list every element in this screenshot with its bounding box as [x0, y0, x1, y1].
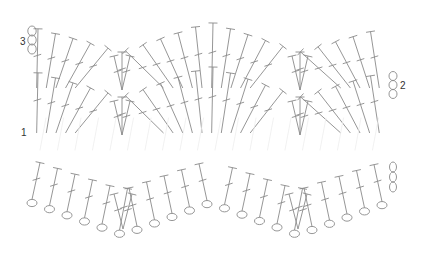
- double-crochet-icon: [46, 33, 60, 88]
- double-crochet-icon: [75, 45, 111, 88]
- double-crochet-icon: [314, 44, 350, 88]
- double-crochet-icon: [335, 175, 347, 214]
- double-crochet-icon: [122, 48, 163, 88]
- crochet-chart: [0, 0, 424, 253]
- row-label-1: 1: [21, 127, 27, 138]
- chain-stitch-icon: [97, 224, 107, 231]
- chain-stitch-icon: [28, 26, 36, 36]
- chain-stitch-icon: [132, 226, 142, 233]
- double-crochet-icon: [349, 80, 370, 133]
- chain-stitch-icon: [389, 81, 397, 90]
- double-crochet-icon: [332, 84, 361, 133]
- chain-stitch-icon: [115, 230, 125, 237]
- double-crochet-icon: [298, 193, 311, 229]
- double-crochet-icon: [56, 37, 77, 88]
- double-crochet-icon: [122, 55, 134, 90]
- double-crochet-icon: [225, 167, 237, 205]
- chain-stitch-icon: [342, 214, 352, 221]
- double-crochet-icon: [260, 179, 272, 218]
- chain-stitch-icon: [390, 182, 397, 192]
- chain-stitch-icon: [167, 213, 177, 220]
- chain-stitch-icon: [150, 220, 160, 227]
- row-label-2: 2: [400, 80, 406, 91]
- double-crochet-icon: [288, 100, 300, 135]
- double-crochet-icon: [209, 67, 218, 133]
- double-crochet-icon: [349, 35, 370, 88]
- chain-stitch-icon: [377, 202, 387, 209]
- double-crochet-icon: [46, 77, 60, 133]
- chain-stitch-icon: [62, 212, 72, 219]
- double-crochet-icon: [32, 162, 44, 200]
- double-crochet-icon: [174, 32, 193, 88]
- double-crochet-icon: [221, 28, 235, 88]
- chain-stitch-icon: [28, 44, 36, 54]
- chain-stitch-icon: [307, 226, 317, 233]
- double-crochet-icon: [110, 100, 122, 135]
- double-crochet-icon: [177, 169, 189, 207]
- chain-stitch-icon: [390, 162, 397, 172]
- chain-stitch-icon: [185, 207, 195, 214]
- double-crochet-icon: [50, 167, 62, 205]
- double-crochet-icon: [370, 164, 382, 202]
- chain-stitch-icon: [389, 90, 397, 99]
- double-crochet-icon: [332, 40, 361, 88]
- double-crochet-icon: [250, 88, 286, 133]
- chain-stitch-icon: [202, 201, 212, 208]
- double-crochet-icon: [102, 185, 114, 224]
- double-crochet-icon: [122, 93, 163, 133]
- chain-stitch-icon: [45, 206, 55, 213]
- double-crochet-icon: [56, 81, 77, 133]
- chain-stitch-icon: [80, 218, 90, 225]
- chain-stitch-icon: [28, 35, 36, 45]
- double-crochet-icon: [297, 49, 340, 88]
- double-crochet-icon: [314, 89, 350, 133]
- row-label-3: 3: [20, 36, 26, 47]
- chain-stitch-icon: [272, 224, 282, 231]
- double-crochet-icon: [300, 55, 312, 90]
- chain-stitch-icon: [390, 172, 397, 182]
- double-crochet-icon: [250, 44, 286, 88]
- double-crochet-icon: [366, 31, 379, 88]
- double-crochet-icon: [195, 163, 207, 201]
- double-crochet-icon: [174, 76, 193, 133]
- double-crochet-icon: [242, 173, 254, 211]
- double-crochet-icon: [75, 90, 111, 133]
- double-crochet-icon: [352, 170, 364, 208]
- chain-stitch-icon: [237, 211, 247, 218]
- chain-stitch-icon: [27, 199, 37, 206]
- chain-stitch-icon: [220, 205, 230, 212]
- double-crochet-icon: [85, 179, 97, 218]
- chain-stitch-icon: [290, 230, 300, 237]
- double-crochet-icon: [67, 173, 79, 211]
- double-crochet-icon: [122, 100, 134, 135]
- double-crochet-icon: [191, 71, 202, 133]
- double-crochet-icon: [277, 185, 289, 224]
- double-crochet-icon: [317, 181, 329, 220]
- double-crochet-icon: [160, 175, 172, 213]
- double-crochet-icon: [297, 94, 340, 133]
- double-crochet-icon: [34, 73, 43, 133]
- double-crochet-icon: [156, 82, 182, 133]
- double-crochet-icon: [241, 83, 270, 133]
- double-crochet-icon: [110, 55, 122, 90]
- chain-stitch-icon: [325, 220, 335, 227]
- chain-stitch-icon: [389, 72, 397, 81]
- double-crochet-icon: [288, 55, 300, 90]
- chain-stitch-icon: [360, 208, 370, 215]
- chain-stitch-icon: [255, 217, 265, 224]
- double-crochet-icon: [123, 193, 136, 229]
- double-crochet-icon: [142, 181, 154, 220]
